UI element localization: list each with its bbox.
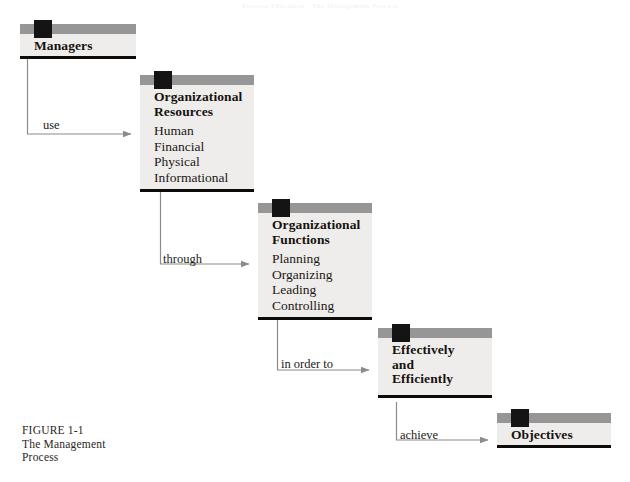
node-title-line-3: Efficiently xyxy=(392,372,492,387)
figure-caption-title-line-2: Process xyxy=(22,451,106,465)
square-marker-icon xyxy=(34,20,52,38)
node-header-bar xyxy=(258,203,372,213)
node-title-line-1: Organizational xyxy=(154,90,254,105)
node-bottom-rule xyxy=(497,445,611,448)
node-managers: Managers xyxy=(20,24,136,59)
node-title: Objectives xyxy=(511,428,611,443)
square-marker-icon xyxy=(511,409,529,427)
square-marker-icon xyxy=(392,324,410,342)
figure-caption-title-line-1: The Management xyxy=(22,438,106,452)
node-item: Informational xyxy=(154,170,254,186)
node-body: Organizational Resources Human Financial… xyxy=(140,85,254,189)
node-item-list: Planning Organizing Leading Controlling xyxy=(272,247,372,313)
node-body: Effectively and Efficiently xyxy=(378,338,492,395)
node-organizational-resources: Organizational Resources Human Financial… xyxy=(140,75,254,192)
node-objectives: Objectives xyxy=(497,413,611,448)
node-organizational-functions: Organizational Functions Planning Organi… xyxy=(258,203,372,320)
node-title-line-1: Organizational xyxy=(272,218,372,233)
node-bottom-rule xyxy=(140,189,254,192)
node-title-line-2: and xyxy=(392,358,492,373)
connector-label-through: through xyxy=(163,252,202,267)
node-bottom-rule xyxy=(20,56,136,59)
node-item: Financial xyxy=(154,139,254,155)
node-body: Organizational Functions Planning Organi… xyxy=(258,213,372,317)
node-title: Managers xyxy=(34,39,136,54)
node-item-list: Human Financial Physical Informational xyxy=(154,119,254,185)
node-effectively-and-efficiently: Effectively and Efficiently xyxy=(378,328,492,398)
node-item: Organizing xyxy=(272,267,372,283)
node-title-line-2: Functions xyxy=(272,233,372,248)
figure-caption: FIGURE 1-1 The Management Process xyxy=(22,424,106,465)
node-bottom-rule xyxy=(258,317,372,320)
node-title-line-2: Resources xyxy=(154,105,254,120)
node-title-line-1: Effectively xyxy=(392,343,492,358)
node-header-bar xyxy=(140,75,254,85)
connector-label-achieve: achieve xyxy=(400,428,438,443)
node-item: Human xyxy=(154,123,254,139)
node-item: Leading xyxy=(272,282,372,298)
square-marker-icon xyxy=(154,71,172,89)
node-item: Controlling xyxy=(272,298,372,314)
figure-caption-number: FIGURE 1-1 xyxy=(22,424,106,438)
node-item: Physical xyxy=(154,154,254,170)
scan-artifact-text: Pearson Education · The Management Proce… xyxy=(130,0,510,12)
node-header-bar xyxy=(497,413,611,423)
management-process-figure: Pearson Education · The Management Proce… xyxy=(0,0,630,482)
node-item: Planning xyxy=(272,251,372,267)
node-header-bar xyxy=(20,24,136,34)
square-marker-icon xyxy=(272,199,290,217)
node-bottom-rule xyxy=(378,395,492,398)
node-header-bar xyxy=(378,328,492,338)
connector-label-in-order-to: in order to xyxy=(281,357,333,372)
connector-label-use: use xyxy=(43,118,60,133)
